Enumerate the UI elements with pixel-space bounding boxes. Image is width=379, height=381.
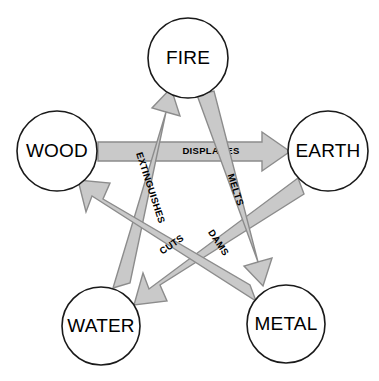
node-metal[interactable]: METAL: [247, 285, 325, 363]
edge-wood-earth: DISPLACES: [98, 132, 290, 171]
node-label-wood: WOOD: [26, 140, 88, 161]
node-label-fire: FIRE: [166, 47, 210, 68]
node-wood[interactable]: WOOD: [17, 111, 97, 191]
edge-water-fire: EXTINGUISHES: [113, 88, 180, 288]
edge-fire-metal: MELTS: [197, 91, 272, 286]
node-earth[interactable]: EARTH: [288, 111, 368, 191]
node-fire[interactable]: FIRE: [148, 18, 228, 98]
node-label-metal: METAL: [255, 313, 318, 334]
diagram-canvas: DISPLACES DAMS EXTINGUISHES MELTS CUTS F…: [0, 0, 379, 381]
node-label-water: WATER: [67, 315, 135, 336]
node-label-earth: EARTH: [295, 140, 360, 161]
wuxing-destructive-cycle-diagram: DISPLACES DAMS EXTINGUISHES MELTS CUTS F…: [0, 0, 379, 381]
edge-label-fire-metal: MELTS: [226, 172, 247, 207]
node-water[interactable]: WATER: [62, 287, 140, 365]
